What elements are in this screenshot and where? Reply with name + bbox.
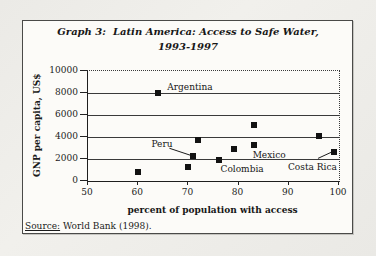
y-tick-mark — [80, 70, 87, 71]
connector-line — [169, 148, 190, 155]
source-citation: World Bank (1998). — [60, 221, 152, 231]
source-note: Source: World Bank (1998). — [25, 221, 152, 231]
y-tick-mark — [80, 136, 87, 137]
x-tick-mark — [238, 181, 239, 185]
chart-title-line1: Graph 3: Latin America: Access to Safe W… — [22, 24, 354, 39]
point-label-mexico: Mexico — [253, 150, 286, 160]
point-label-costa-rica: Costa Rica — [288, 162, 337, 172]
y-tick-mark — [80, 92, 87, 93]
x-tick-label: 80 — [223, 187, 253, 197]
data-point — [155, 90, 161, 96]
chart-title-line2: 1993-1997 — [22, 39, 354, 54]
y-axis-label: GNP per capita, US$ — [32, 68, 46, 182]
y-tick-mark — [80, 180, 87, 181]
y-tick-label: 6000 — [45, 109, 78, 119]
x-tick-mark — [187, 181, 188, 185]
x-tick-mark — [338, 181, 339, 185]
data-point — [135, 169, 141, 175]
point-label-colombia: Colombia — [221, 164, 264, 174]
point-label-argentina: Argentina — [167, 82, 212, 92]
y-tick-label: 8000 — [45, 87, 78, 97]
data-point — [331, 149, 337, 155]
y-tick-label: 0 — [45, 175, 78, 185]
x-tick-label: 100 — [323, 187, 353, 197]
y-tick-label: 2000 — [45, 153, 78, 163]
x-tick-label: 50 — [72, 187, 102, 197]
x-tick-mark — [87, 181, 88, 185]
y-tick-label: 4000 — [45, 131, 78, 141]
gridline — [88, 159, 339, 160]
chart-title: Graph 3: Latin America: Access to Safe W… — [22, 24, 354, 54]
x-tick-mark — [288, 181, 289, 185]
scanned-page: Graph 3: Latin America: Access to Safe W… — [0, 0, 376, 256]
data-point — [251, 142, 257, 148]
x-tick-label: 90 — [273, 187, 303, 197]
plot-area: ArgentinaPeruColombiaMexicoCosta Rica — [87, 70, 340, 182]
data-point — [185, 164, 191, 170]
y-tick-label: 10000 — [45, 65, 78, 75]
data-point — [216, 157, 222, 163]
data-point — [231, 146, 237, 152]
x-tick-mark — [137, 181, 138, 185]
gridline — [88, 115, 339, 116]
data-point — [195, 137, 201, 143]
x-axis-label: percent of population with access — [87, 205, 338, 215]
data-point — [251, 122, 257, 128]
gridline — [88, 93, 339, 94]
point-label-peru: Peru — [151, 139, 172, 149]
connector-line — [318, 152, 331, 158]
y-tick-mark — [80, 114, 87, 115]
data-point — [316, 133, 322, 139]
y-tick-mark — [80, 158, 87, 159]
x-tick-label: 60 — [122, 187, 152, 197]
source-label: Source: — [25, 221, 60, 231]
gridline — [88, 137, 339, 138]
x-tick-label: 70 — [172, 187, 202, 197]
data-point — [190, 153, 196, 159]
